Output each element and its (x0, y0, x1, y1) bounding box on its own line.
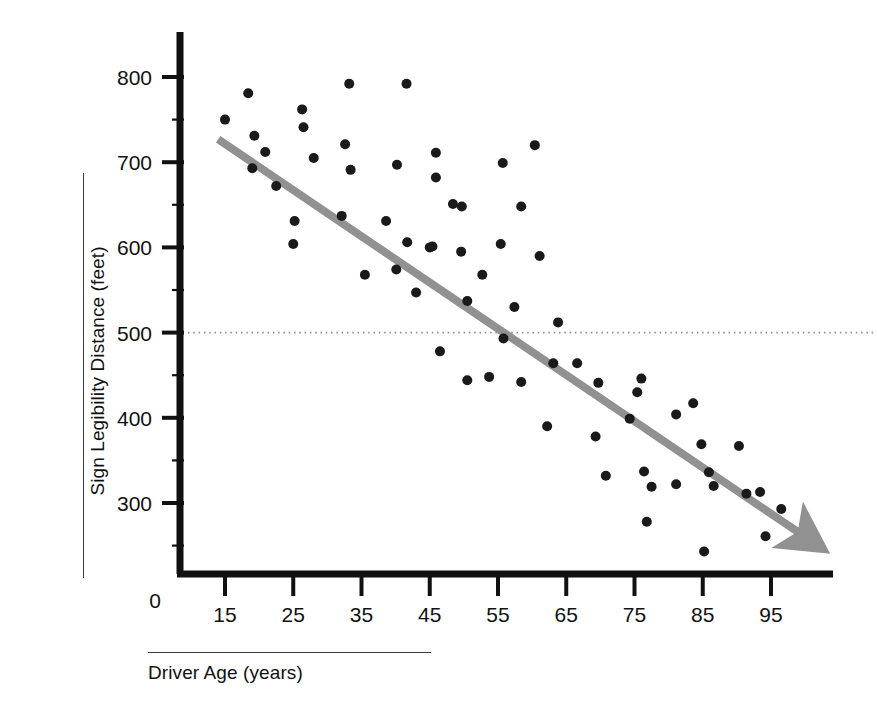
data-point (696, 439, 706, 449)
trend-line-group (218, 139, 802, 534)
data-point (243, 88, 253, 98)
x-tick-label-45: 45 (418, 603, 441, 626)
data-point (591, 432, 601, 442)
data-point (457, 202, 467, 212)
data-point (249, 131, 259, 141)
data-point (462, 375, 472, 385)
data-point (462, 296, 472, 306)
chart-figure: Sign Legibility Distance (feet) Driver A… (0, 0, 877, 727)
y-tick-label-400: 400 (117, 407, 152, 430)
data-point (435, 346, 445, 356)
data-point (776, 504, 786, 514)
data-point (456, 247, 466, 257)
x-tick-label-85: 85 (691, 603, 714, 626)
data-point (309, 153, 319, 163)
data-point (271, 181, 281, 191)
data-point (360, 270, 370, 280)
data-point (448, 199, 458, 209)
data-point (632, 387, 642, 397)
data-point (477, 270, 487, 280)
data-point (337, 211, 347, 221)
origin-zero-label: 0 (149, 589, 161, 612)
y-tick-label-500: 500 (117, 322, 152, 345)
data-point (542, 421, 552, 431)
x-tick-label-55: 55 (486, 603, 509, 626)
data-point (340, 139, 350, 149)
x-tick-label-65: 65 (555, 603, 578, 626)
x-tick-label-95: 95 (759, 603, 782, 626)
data-point (297, 104, 307, 114)
y-tick-label-300: 300 (117, 492, 152, 515)
data-point (427, 242, 437, 252)
data-point (572, 358, 582, 368)
y-tick-label-800: 800 (117, 66, 152, 89)
data-point (709, 481, 719, 491)
scatter-plot-canvas: 300400500600700800 152535455565758595 0 (0, 0, 877, 727)
data-point (431, 173, 441, 183)
data-point (298, 122, 308, 132)
data-point (704, 467, 714, 477)
data-point (636, 374, 646, 384)
data-point (516, 377, 526, 387)
data-point (553, 317, 563, 327)
data-point (247, 163, 257, 173)
x-tick-label-15: 15 (213, 603, 236, 626)
data-point (688, 398, 698, 408)
data-point (484, 372, 494, 382)
x-axis-group: 152535455565758595 0 (149, 574, 833, 626)
data-point (639, 466, 649, 476)
data-point (642, 517, 652, 527)
data-point (601, 471, 611, 481)
data-point (741, 489, 751, 499)
data-point (381, 216, 391, 226)
y-tick-label-600: 600 (117, 236, 152, 259)
data-point (402, 237, 412, 247)
data-point (220, 115, 230, 125)
data-point (734, 441, 744, 451)
x-tick-label-35: 35 (350, 603, 373, 626)
data-point (411, 288, 421, 298)
data-point-group (220, 79, 786, 557)
data-point (392, 160, 402, 170)
data-point (431, 148, 441, 158)
x-tick-label-75: 75 (623, 603, 646, 626)
x-tick-marks (225, 576, 771, 596)
data-point (288, 239, 298, 249)
data-point (530, 140, 540, 150)
data-point (755, 487, 765, 497)
data-point (535, 251, 545, 261)
data-point (260, 147, 270, 157)
data-point (402, 79, 412, 89)
data-point (593, 378, 603, 388)
data-point (699, 547, 709, 557)
y-tick-label-700: 700 (117, 151, 152, 174)
data-point (391, 265, 401, 275)
y-tick-labels: 300400500600700800 (117, 66, 152, 515)
data-point (647, 482, 657, 492)
data-point (344, 79, 354, 89)
data-point (625, 414, 635, 424)
data-point (761, 531, 771, 541)
data-point (509, 302, 519, 312)
data-point (671, 409, 681, 419)
data-point (498, 334, 508, 344)
data-point (498, 158, 508, 168)
data-point (346, 165, 356, 175)
data-point (290, 216, 300, 226)
data-point (671, 479, 681, 489)
data-point (516, 202, 526, 212)
regression-trend-line (218, 139, 802, 534)
data-point (548, 358, 558, 368)
x-tick-labels: 152535455565758595 (213, 603, 782, 626)
data-point (496, 239, 506, 249)
y-axis-group: 300400500600700800 (117, 32, 184, 574)
x-tick-label-25: 25 (282, 603, 305, 626)
